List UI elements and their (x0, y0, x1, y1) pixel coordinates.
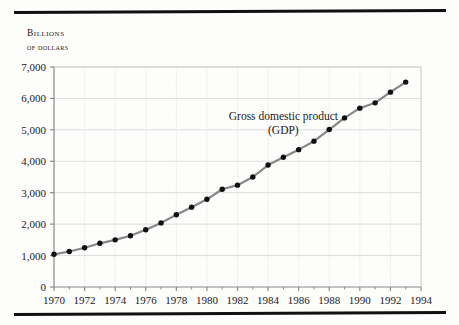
data-point-marker (250, 174, 255, 179)
figure-container: Billions of dollars 01,0002,0003,0004,00… (0, 0, 459, 325)
data-point-marker (143, 227, 148, 232)
data-point-marker (327, 127, 332, 132)
y-tick-label: 7,000 (21, 61, 46, 73)
data-point-marker (128, 233, 133, 238)
x-tick-label: 1980 (196, 294, 219, 306)
x-tick-label: 1994 (410, 294, 433, 306)
data-point-marker (342, 115, 347, 120)
data-point-marker (296, 147, 301, 152)
x-tick-label: 1978 (165, 294, 188, 306)
x-tick-label: 1992 (379, 294, 401, 306)
data-point-marker (403, 79, 408, 84)
x-axis-tick-labels: 1970197219741976197819801982198419861988… (43, 294, 433, 306)
data-point-marker (372, 100, 377, 105)
gdp-line-chart: 01,0002,0003,0004,0005,0006,0007,000 197… (0, 0, 459, 325)
x-tick-label: 1970 (43, 294, 66, 306)
y-tick-label: 4,000 (21, 155, 46, 167)
data-point-marker (388, 89, 393, 94)
data-point-marker (189, 204, 194, 209)
x-tick-label: 1988 (318, 294, 341, 306)
annotation-line-1: Gross domestic product (229, 110, 339, 123)
x-tick-label: 1974 (104, 294, 127, 306)
data-point-marker (82, 245, 87, 250)
y-tick-label: 0 (41, 281, 47, 293)
data-point-marker (51, 252, 56, 257)
data-point-marker (311, 138, 316, 143)
gdp-series-line (54, 82, 406, 254)
gdp-series-markers (51, 79, 408, 257)
x-tick-label: 1986 (288, 294, 311, 306)
y-tick-label: 6,000 (21, 92, 46, 104)
y-tick-label: 1,000 (21, 250, 46, 262)
data-point-marker (220, 187, 225, 192)
data-point-marker (158, 220, 163, 225)
gdp-line-path (54, 82, 406, 254)
annotation-line-2: (GDP) (268, 124, 299, 137)
data-point-marker (112, 237, 117, 242)
y-tick-label: 5,000 (21, 124, 46, 136)
data-point-marker (235, 182, 240, 187)
x-tick-label: 1982 (227, 294, 249, 306)
data-point-marker (357, 105, 362, 110)
y-tick-label: 3,000 (21, 187, 46, 199)
data-point-marker (204, 197, 209, 202)
y-tick-label: 2,000 (21, 218, 46, 230)
y-axis-tick-labels: 01,0002,0003,0004,0005,0006,0007,000 (21, 61, 46, 293)
data-point-marker (281, 155, 286, 160)
x-tick-label: 1984 (257, 294, 280, 306)
x-tick-label: 1972 (74, 294, 96, 306)
data-point-marker (67, 249, 72, 254)
data-point-marker (174, 212, 179, 217)
data-point-marker (97, 241, 102, 246)
series-annotation-label: Gross domestic product(GDP) (229, 110, 339, 137)
x-tick-label: 1990 (349, 294, 372, 306)
x-tick-label: 1976 (135, 294, 158, 306)
data-point-marker (265, 162, 270, 167)
